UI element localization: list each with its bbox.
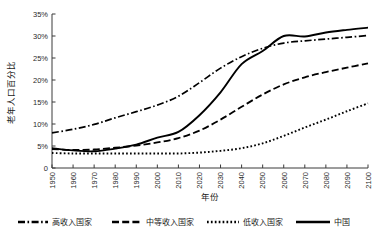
y-tick-label: 5%	[37, 142, 48, 151]
legend-label: 低收入国家	[243, 217, 283, 227]
x-tick-label: 2080	[322, 172, 331, 189]
y-tick-label: 35%	[33, 10, 48, 19]
x-tick-label: 2000	[153, 172, 162, 189]
y-tick-label: 0	[44, 164, 48, 173]
x-tick-label: 1970	[90, 172, 99, 189]
x-tick-label: 1960	[69, 172, 78, 189]
x-tick-label: 2040	[237, 172, 246, 189]
y-tick-label: 25%	[33, 54, 48, 63]
x-tick-label: 1980	[111, 172, 120, 189]
y-tick-label: 15%	[33, 98, 48, 107]
x-tick-label: 2010	[174, 172, 183, 189]
legend-label: 高收入国家	[52, 217, 92, 227]
y-axis-title: 老年人口百分比	[6, 61, 16, 124]
x-tick-label: 1990	[132, 172, 141, 189]
x-tick-label: 2060	[280, 172, 289, 189]
chart-container: 老年人口百分比 05%10%15%20%25%30%35% 1950196019…	[0, 0, 378, 241]
x-tick-label: 2030	[216, 172, 225, 189]
y-tick-label: 20%	[33, 76, 48, 85]
x-tick-label: 2070	[301, 172, 310, 189]
legend-label: 中国	[334, 217, 350, 227]
x-tick-label: 2050	[258, 172, 267, 189]
x-tick-label: 2100	[364, 172, 373, 189]
y-tick-label: 30%	[33, 32, 48, 41]
y-tick-label: 10%	[33, 120, 48, 129]
legend-label: 中等收入国家	[146, 217, 194, 227]
x-tick-label: 2020	[195, 172, 204, 189]
line-chart: 老年人口百分比 05%10%15%20%25%30%35% 1950196019…	[0, 0, 378, 241]
x-tick-label: 2090	[343, 172, 352, 189]
x-tick-label: 1950	[48, 172, 57, 189]
x-axis-title: 年份	[201, 192, 219, 202]
